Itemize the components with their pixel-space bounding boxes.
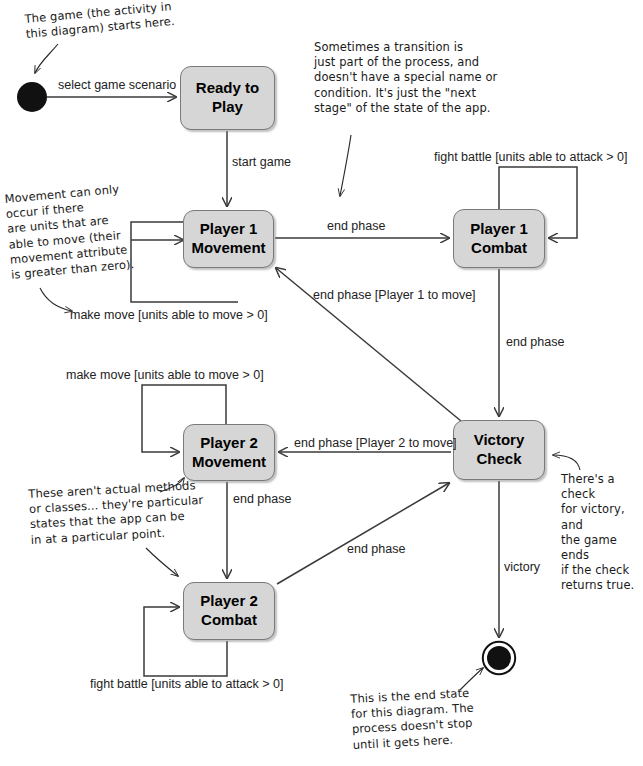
state-player-1-combat-line1: Player 1 xyxy=(470,220,528,239)
label-victory-to-p2move: end phase [Player 2 to move] xyxy=(294,436,457,450)
label-p1-fight-battle: fight battle [units able to attack > 0] xyxy=(434,150,628,164)
edge-p2combat-to-victory xyxy=(277,483,449,584)
label-p2-fight-battle: fight battle [units able to attack > 0] xyxy=(90,677,284,691)
state-player-1-movement[interactable]: Player 1 Movement xyxy=(183,210,274,268)
state-player-1-combat[interactable]: Player 1 Combat xyxy=(453,209,545,268)
state-player-1-combat-line2: Combat xyxy=(470,239,528,258)
label-p2move-end-phase: end phase xyxy=(233,492,291,506)
label-start-game: start game xyxy=(232,155,291,169)
note-end: This is the end state for this diagram. … xyxy=(350,686,476,753)
state-victory-check[interactable]: Victory Check xyxy=(453,420,545,480)
label-p2-make-move: make move [units able to move > 0] xyxy=(66,368,264,382)
state-player-1-movement-line1: Player 1 xyxy=(191,220,265,239)
state-player-2-combat-line2: Combat xyxy=(200,611,258,630)
state-player-2-movement[interactable]: Player 2 Movement xyxy=(183,424,275,481)
leader-note-victory xyxy=(553,455,580,470)
label-victory-end: victory xyxy=(504,560,540,574)
leader-note-movement xyxy=(40,288,72,311)
state-ready-to-play-line1: Ready to xyxy=(196,79,259,98)
note-victory: There's a check for victory, and the gam… xyxy=(561,472,643,593)
label-select-game-scenario: select game scenario xyxy=(58,78,176,92)
state-player-2-movement-line1: Player 2 xyxy=(192,434,266,453)
note-transition: Sometimes a transition is just part of t… xyxy=(314,40,497,116)
label-p1combat-end-phase: end phase xyxy=(506,335,564,349)
label-p1-end-phase: end phase xyxy=(327,219,385,233)
state-diagram-canvas: Ready to Play Player 1 Movement Player 1… xyxy=(0,0,643,766)
note-states: These aren't actual methods or classes..… xyxy=(28,478,205,548)
state-player-2-movement-line2: Movement xyxy=(192,453,266,472)
leader-note-transition xyxy=(340,135,351,196)
leader-note-states2 xyxy=(146,548,178,576)
state-ready-to-play-line2: Play xyxy=(196,98,259,117)
state-victory-check-line1: Victory xyxy=(474,431,525,450)
state-player-1-movement-line2: Movement xyxy=(191,239,265,258)
label-victory-to-p1move: end phase [Player 1 to move] xyxy=(313,288,476,302)
note-movement: Movement can only occur if there are uni… xyxy=(4,181,135,282)
leader-note-start xyxy=(35,44,58,73)
initial-node xyxy=(16,81,48,113)
state-player-2-combat[interactable]: Player 2 Combat xyxy=(183,582,275,640)
state-player-2-combat-line1: Player 2 xyxy=(200,592,258,611)
final-node xyxy=(481,640,517,676)
state-ready-to-play[interactable]: Ready to Play xyxy=(180,66,275,130)
label-p1-make-move: make move [units able to move > 0] xyxy=(70,308,268,322)
state-victory-check-line2: Check xyxy=(474,450,525,469)
label-p2combat-to-victory: end phase xyxy=(347,542,405,556)
